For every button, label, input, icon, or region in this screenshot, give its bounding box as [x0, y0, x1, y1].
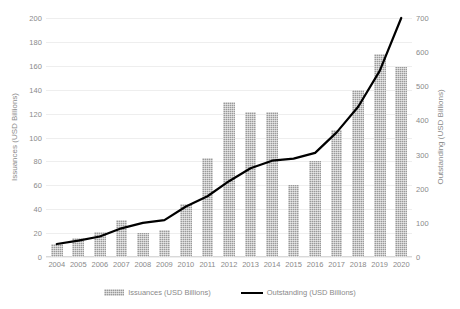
- legend-item-label: Issuances (USD Billions): [128, 288, 211, 297]
- y-tick-label: 100: [16, 133, 42, 142]
- legend-item-issuances: Issuances (USD Billions): [104, 288, 211, 297]
- y-tick-label: 140: [16, 85, 42, 94]
- x-tick-label: 2015: [285, 260, 302, 269]
- bar-slot: [369, 18, 391, 257]
- x-tick-label: 2018: [350, 260, 367, 269]
- x-tick-label: 2017: [328, 260, 345, 269]
- x-tick-label: 2012: [221, 260, 238, 269]
- line-swatch-icon: [241, 292, 263, 294]
- bar-slot: [197, 18, 219, 257]
- y2-tick-label: 300: [416, 150, 442, 159]
- bar: [51, 244, 63, 257]
- x-tick-label: 2013: [242, 260, 259, 269]
- x-tick-label: 2011: [199, 260, 215, 269]
- y-tick-label: 0: [16, 253, 42, 262]
- bar: [223, 102, 235, 257]
- bar-slot: [283, 18, 305, 257]
- bar: [309, 161, 321, 257]
- x-tick-label: 2014: [264, 260, 281, 269]
- y2-tick-label: 400: [416, 116, 442, 125]
- bar-slot: [347, 18, 369, 257]
- x-tick-label: 2007: [113, 260, 130, 269]
- bar: [266, 112, 278, 257]
- bar: [352, 90, 364, 257]
- y-tick-label: 80: [16, 157, 42, 166]
- bar: [116, 220, 128, 257]
- bar: [137, 233, 149, 257]
- bar-slot: [390, 18, 412, 257]
- x-tick-label: 2008: [135, 260, 152, 269]
- bar: [72, 238, 84, 257]
- combo-chart: Issuances (USD Billions) Outstanding (US…: [0, 0, 460, 309]
- bar-slot: [154, 18, 176, 257]
- bar-slot: [132, 18, 154, 257]
- chart-legend: Issuances (USD Billions) Outstanding (US…: [0, 288, 460, 297]
- gridline: [46, 257, 412, 258]
- y2-tick-label: 200: [416, 184, 442, 193]
- y2-tick-label: 500: [416, 82, 442, 91]
- y-tick-label: 180: [16, 37, 42, 46]
- y2-tick-label: 700: [416, 14, 442, 23]
- y-tick-label: 20: [16, 229, 42, 238]
- x-tick-label: 2004: [48, 260, 65, 269]
- right-axis-title: Outstanding (USD Billions): [436, 89, 445, 184]
- bar: [374, 54, 386, 257]
- x-tick-label: 2010: [178, 260, 195, 269]
- bar-slot: [218, 18, 240, 257]
- bar: [395, 67, 407, 257]
- y2-tick-label: 0: [416, 253, 442, 262]
- bar-slot: [46, 18, 68, 257]
- bar: [159, 230, 171, 257]
- x-tick-label: 2005: [70, 260, 87, 269]
- bar-slot: [304, 18, 326, 257]
- plot-area: [46, 18, 412, 257]
- bar: [180, 204, 192, 257]
- y-tick-label: 120: [16, 109, 42, 118]
- x-tick-label: 2016: [307, 260, 324, 269]
- y2-tick-label: 100: [416, 218, 442, 227]
- x-tick-label: 2009: [156, 260, 173, 269]
- bar: [245, 112, 257, 257]
- bar-slot: [326, 18, 348, 257]
- bar: [94, 232, 106, 257]
- bar: [202, 158, 214, 257]
- legend-item-outstanding: Outstanding (USD Billions): [241, 288, 356, 297]
- y-tick-label: 160: [16, 61, 42, 70]
- bar-slot: [175, 18, 197, 257]
- y-tick-label: 40: [16, 205, 42, 214]
- bar: [331, 130, 343, 257]
- bar-slot: [240, 18, 262, 257]
- x-axis-ticks: 2004200520062007200820092010201120122013…: [46, 260, 412, 274]
- legend-item-label: Outstanding (USD Billions): [267, 288, 356, 297]
- bar-swatch-icon: [104, 289, 124, 296]
- bar-slot: [111, 18, 133, 257]
- bar-slot: [261, 18, 283, 257]
- bar-slot: [89, 18, 111, 257]
- x-tick-label: 2006: [91, 260, 108, 269]
- x-tick-label: 2020: [393, 260, 410, 269]
- y2-tick-label: 600: [416, 48, 442, 57]
- y-tick-label: 200: [16, 14, 42, 23]
- bar: [288, 185, 300, 257]
- bar-slot: [68, 18, 90, 257]
- y-tick-label: 60: [16, 181, 42, 190]
- x-tick-label: 2019: [371, 260, 388, 269]
- bar-series-issuances: [46, 18, 412, 257]
